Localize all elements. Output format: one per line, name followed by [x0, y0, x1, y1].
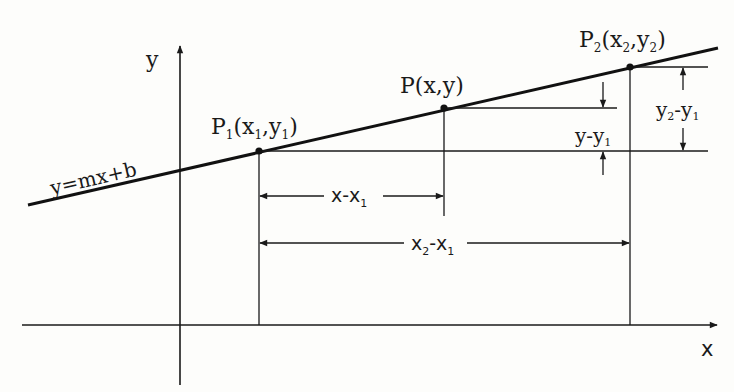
label-y2-minus-y1: y2-y1 — [655, 98, 699, 123]
construction-lines — [259, 67, 708, 325]
point-p — [440, 104, 447, 111]
point-p2 — [626, 63, 633, 70]
label-p: P(x,y) — [400, 73, 464, 98]
y-axis-label: y — [145, 47, 159, 72]
slope-diagram: y x y=mx+b P1(x1,y1) P(x,y) P2(x2,y2) x-… — [0, 0, 734, 392]
equation-label: y=mx+b — [47, 157, 139, 200]
line-y-mx-b: y=mx+b — [28, 48, 718, 205]
point-p1 — [255, 147, 262, 154]
x-axis-label: x — [701, 337, 713, 361]
label-x2-minus-x1: x2-x1 — [411, 232, 454, 258]
axes: y x — [22, 46, 717, 385]
label-y-minus-y1: y-y1 — [574, 124, 611, 149]
label-p1: P1(x1,y1) — [211, 114, 298, 142]
label-x-minus-x1: x-x1 — [331, 184, 367, 210]
label-p2: P2(x2,y2) — [579, 27, 666, 55]
